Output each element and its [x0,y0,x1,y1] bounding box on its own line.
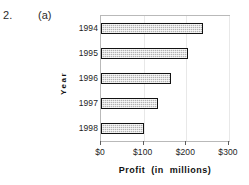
x-axis-ticks [100,141,230,146]
y-tick-label-1994: 1994 [79,23,98,33]
x-axis-title: Profit(inmillions) [100,165,230,175]
y-tick-label-1996: 1996 [79,73,98,83]
bar-1994 [101,23,203,34]
bar-chart-figure: 2. (a) Year 19941995199619971998 $0$100$… [0,0,249,185]
gridline [229,16,230,141]
bar-1998 [101,123,144,134]
x-tick-label-200: $200 [176,147,195,157]
question-part-label: (a) [38,9,51,21]
x-tick-label-300: $300 [218,147,237,157]
x-tick-label-0: $0 [95,147,105,157]
x-axis-title-word-1: Profit [119,165,146,175]
plot-inner [101,16,229,141]
y-tick-label-1997: 1997 [79,98,98,108]
x-axis-title-word-2: (in [151,165,164,175]
bar-1995 [101,48,188,59]
question-number: 2. [3,9,13,21]
bar-1997 [101,98,158,109]
bar-1996 [101,73,171,84]
x-tick-label-100: $100 [133,147,152,157]
y-axis-title: Year [57,58,71,108]
gridline [186,16,187,141]
y-axis-tick-labels: 19941995199619971998 [72,15,98,140]
x-axis-title-word-3: millions) [170,165,212,175]
x-tick [143,141,144,145]
x-axis-tick-labels: $0$100$200$300 [80,147,249,159]
y-tick-label-1998: 1998 [79,123,98,133]
x-tick [100,141,101,145]
x-tick [185,141,186,145]
plot-area [100,15,230,142]
y-tick-label-1995: 1995 [79,48,98,58]
x-tick [228,141,229,145]
